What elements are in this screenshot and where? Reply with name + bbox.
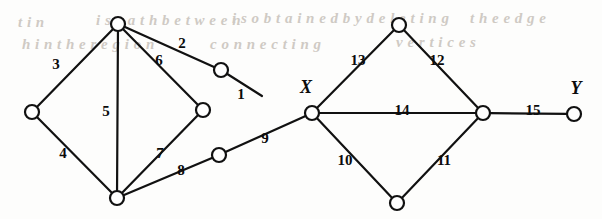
graph-edge-10 xyxy=(317,118,392,198)
edge-weight-label-3: 3 xyxy=(52,56,60,72)
graph-diagram: 123456789101112131415 XY xyxy=(0,0,602,219)
edge-weight-label-9: 9 xyxy=(261,130,269,146)
vertex-label-y: Y xyxy=(571,78,584,98)
graph-vertex-bm xyxy=(390,196,404,210)
graph-vertex-y xyxy=(567,107,581,121)
graph-vertex-a xyxy=(111,17,125,31)
terminal-vertex-label-layer: XY xyxy=(299,77,584,98)
edge-weight-label-5: 5 xyxy=(102,103,110,119)
graph-edge-13 xyxy=(317,30,394,108)
graph-vertex-d xyxy=(196,103,210,117)
graph-edge-12 xyxy=(404,30,478,108)
graph-vertex-t xyxy=(392,18,406,32)
graph-edge-5 xyxy=(117,31,118,191)
edge-weight-label-1: 1 xyxy=(237,86,245,102)
edge-weight-label-15: 15 xyxy=(526,102,541,118)
graph-vertex-e xyxy=(214,63,228,77)
figure-canvas: t i ni s p a t h b e t w e e ni s o b t … xyxy=(0,0,602,219)
graph-vertex-c xyxy=(110,191,124,205)
edge-weight-label-8: 8 xyxy=(177,162,185,178)
edge-weight-label-layer: 123456789101112131415 xyxy=(52,35,540,178)
vertex-label-x: X xyxy=(299,77,313,97)
graph-vertex-f xyxy=(212,148,226,162)
edge-weight-label-14: 14 xyxy=(395,102,411,118)
edge-weight-label-11: 11 xyxy=(437,152,451,168)
graph-vertex-r xyxy=(476,106,490,120)
edge-weight-label-12: 12 xyxy=(430,52,445,68)
graph-edge-2 xyxy=(124,27,214,67)
edge-weight-label-4: 4 xyxy=(59,145,67,161)
edge-weight-label-7: 7 xyxy=(156,145,164,161)
graph-vertex-x xyxy=(305,106,319,120)
graph-vertex-b xyxy=(25,105,39,119)
graph-edge-3 xyxy=(37,29,113,107)
edge-weight-label-13: 13 xyxy=(351,52,366,68)
edge-weight-label-6: 6 xyxy=(155,52,163,68)
edge-weight-label-2: 2 xyxy=(178,35,186,51)
edge-weight-label-10: 10 xyxy=(338,152,353,168)
graph-edge-4 xyxy=(37,117,112,193)
